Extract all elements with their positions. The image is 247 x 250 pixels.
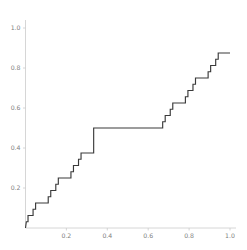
y-tick-label: 1.0: [11, 24, 21, 31]
cantor-function-plot: 0.20.40.60.81.0 0.20.40.60.81.0: [0, 0, 247, 250]
x-tick-label: 0.6: [143, 232, 153, 239]
y-axis-ticks: 0.20.40.60.81.0: [11, 24, 26, 191]
x-tick-label: 1.0: [225, 232, 235, 239]
x-axis-ticks: 0.20.40.60.81.0: [61, 228, 235, 239]
axis-spines: [26, 20, 237, 228]
x-tick-label: 0.2: [61, 232, 71, 239]
y-tick-label: 0.4: [11, 144, 21, 151]
x-tick-label: 0.8: [184, 232, 194, 239]
y-tick-label: 0.2: [11, 184, 21, 191]
chart-figure: 0.20.40.60.81.0 0.20.40.60.81.0: [0, 0, 247, 250]
data-series-group: [26, 53, 231, 228]
y-tick-label: 0.8: [11, 64, 21, 71]
x-tick-label: 0.4: [102, 232, 112, 239]
cantor-staircase-curve: [26, 53, 231, 228]
y-tick-label: 0.6: [11, 104, 21, 111]
